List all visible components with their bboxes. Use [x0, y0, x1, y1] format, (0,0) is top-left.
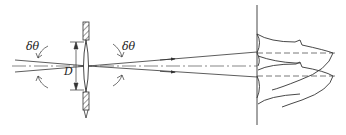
angle-label-right: δθ	[122, 40, 136, 53]
diffraction-resolution-diagram: D δθ δθ	[0, 0, 346, 135]
angle-label-left: δθ	[26, 40, 40, 53]
diagram-svg: D δθ δθ	[0, 0, 346, 135]
diffraction-patterns	[257, 34, 333, 107]
lens-mount-top	[83, 22, 89, 40]
lens	[84, 40, 89, 92]
outgoing-rays	[88, 52, 257, 77]
lens-mount-bottom	[83, 92, 89, 118]
aperture-label: D	[63, 65, 73, 78]
